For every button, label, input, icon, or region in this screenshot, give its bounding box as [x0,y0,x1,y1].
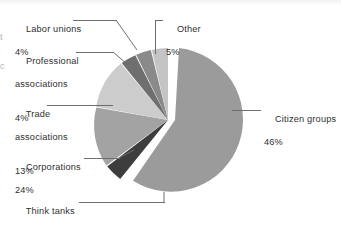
chart-canvas: t c [0,0,341,230]
leader-line-other [155,20,163,21]
label-professional-associations-line2: associations [15,79,79,90]
label-think-tanks-name: Think tanks [26,206,75,216]
leader-line-corporations-diagonal [119,150,137,160]
label-trade-associations-line1: Trade [26,109,51,119]
leader-line-labor-unions-diagonal [116,20,140,52]
label-think-tanks: Think tanks 4% [15,195,75,230]
cropped-glyph-bottom: c [0,62,6,71]
label-citizen-groups-pct: 46% [264,137,336,148]
label-other-name: Other [177,24,201,34]
leader-line-think-tanks [79,202,165,203]
leader-line-think-tanks-vertical [164,192,172,204]
page-scan-band [0,0,341,5]
leader-line-corporations [84,158,120,159]
label-other: Other 5% [166,13,201,81]
label-citizen-groups-name: Citizen groups [275,114,336,124]
label-trade-associations-line2: associations [15,132,68,143]
label-labor-unions-name: Labor unions [26,24,81,34]
label-professional-associations-line1: Professional [26,56,79,66]
label-other-pct: 5% [166,47,201,58]
leader-line-professional-associations [76,52,114,53]
label-corporations-name: Corporations [26,162,81,172]
leader-line-other-vertical [155,20,156,54]
cropped-glyph-top: t [0,33,6,42]
label-citizen-groups: Citizen groups 46% [264,103,336,171]
label-think-tanks-pct: 4% [15,229,75,230]
leader-line-citizen-groups [232,110,261,111]
leader-line-professional-associations-diagonal [113,52,131,66]
